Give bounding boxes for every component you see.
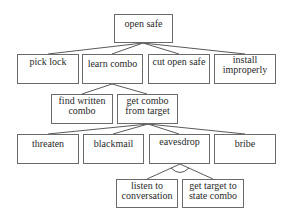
node-blackmail: blackmail xyxy=(83,134,144,164)
node-threaten: threaten xyxy=(17,134,79,164)
edge-get-threaten xyxy=(48,124,148,134)
node-label: open safe xyxy=(124,18,162,29)
edge-root-install xyxy=(143,43,245,54)
node-bribe: bribe xyxy=(214,134,276,164)
node-label-line2: from target xyxy=(118,106,177,116)
node-install-improperly: install improperly xyxy=(214,54,276,84)
node-label: eavesdrop xyxy=(159,136,200,147)
node-label: bribe xyxy=(235,138,256,149)
node-label: threaten xyxy=(32,138,64,149)
node-cut-open-safe: cut open safe xyxy=(148,54,210,84)
node-listen-to-conversation: listen to conversation xyxy=(116,179,178,208)
edge-learn-find-written xyxy=(82,84,112,94)
node-label-line2: state combo xyxy=(183,191,243,201)
node-eavesdrop: eavesdrop xyxy=(149,134,210,164)
node-label: blackmail xyxy=(94,138,133,149)
node-pick-lock: pick lock xyxy=(17,54,79,84)
node-get-target-to-state-combo: get target to state combo xyxy=(182,179,244,208)
edge-learn-get-combo xyxy=(112,84,147,94)
node-label: pick lock xyxy=(30,56,67,67)
node-label-line2: improperly xyxy=(215,65,275,75)
node-label: learn combo xyxy=(88,58,138,69)
and-arc xyxy=(171,168,189,173)
node-find-written-combo: find written combo xyxy=(51,94,113,124)
node-learn-combo: learn combo xyxy=(82,54,143,84)
node-open-safe: open safe xyxy=(114,14,173,43)
node-label: cut open safe xyxy=(153,56,206,67)
node-label-line2: conversation xyxy=(117,191,177,201)
node-get-combo-from-target: get combo from target xyxy=(117,94,178,124)
node-label-line2: combo xyxy=(52,106,112,116)
